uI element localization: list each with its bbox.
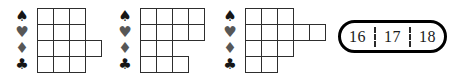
card-count-cells	[245, 40, 294, 57]
card-cell	[277, 8, 294, 25]
bridge-shape-diagram: ♠♥♦♣ ♠♥♦♣ ♠♥♦♣ 16 17 18	[0, 0, 455, 78]
card-cell	[277, 40, 294, 57]
card-cell	[85, 40, 102, 57]
card-count-cells	[140, 8, 205, 25]
card-cell	[53, 40, 70, 57]
card-cell	[245, 8, 262, 25]
card-cell	[140, 56, 157, 73]
card-cell	[309, 24, 326, 41]
card-cell	[188, 8, 205, 25]
card-count-cells	[245, 24, 326, 41]
card-count-cells	[37, 40, 102, 57]
suit-row-club: ♣	[222, 56, 326, 73]
suit-row-heart: ♥	[222, 24, 326, 41]
card-cell	[37, 8, 54, 25]
card-cell	[172, 56, 189, 73]
club-icon: ♣	[222, 56, 238, 73]
card-cell	[277, 24, 294, 41]
card-count-cells	[140, 40, 173, 57]
card-count-cells	[37, 56, 86, 73]
card-count-cells	[37, 8, 86, 25]
point-value-high: 18	[419, 28, 436, 46]
card-cell	[156, 8, 173, 25]
suit-row-club: ♣	[14, 56, 102, 73]
card-count-cells	[140, 24, 205, 41]
card-cell	[156, 24, 173, 41]
card-cell	[261, 40, 278, 57]
card-cell	[188, 24, 205, 41]
card-count-cells	[245, 56, 278, 73]
card-cell	[293, 24, 310, 41]
hand-diagram-3: ♠♥♦♣	[222, 8, 326, 73]
card-cell	[37, 56, 54, 73]
dashed-divider-icon	[374, 27, 376, 47]
card-cell	[172, 8, 189, 25]
card-cell	[156, 40, 173, 57]
card-cell	[245, 40, 262, 57]
card-count-cells	[37, 24, 86, 41]
point-value-low: 16	[349, 28, 366, 46]
hand-diagram-1: ♠♥♦♣	[14, 8, 102, 73]
card-cell	[140, 40, 157, 57]
suit-row-club: ♣	[117, 56, 205, 73]
card-count-cells	[140, 56, 189, 73]
dashed-divider-icon	[409, 27, 411, 47]
club-icon: ♣	[117, 56, 133, 73]
point-range-pill: 16 17 18	[338, 20, 447, 53]
card-cell	[69, 24, 86, 41]
card-cell	[261, 56, 278, 73]
card-cell	[261, 24, 278, 41]
card-cell	[53, 8, 70, 25]
card-cell	[245, 56, 262, 73]
suit-row-spade: ♠	[222, 8, 326, 25]
card-cell	[172, 24, 189, 41]
card-cell	[53, 24, 70, 41]
card-cell	[69, 56, 86, 73]
card-cell	[140, 24, 157, 41]
card-cell	[37, 24, 54, 41]
card-cell	[156, 56, 173, 73]
card-cell	[37, 40, 54, 57]
card-cell	[53, 56, 70, 73]
card-cell	[69, 8, 86, 25]
card-cell	[245, 24, 262, 41]
card-cell	[140, 8, 157, 25]
card-cell	[69, 40, 86, 57]
hand-diagram-2: ♠♥♦♣	[117, 8, 205, 73]
point-value-mid: 17	[384, 28, 401, 46]
suit-row-diamond: ♦	[222, 40, 326, 57]
club-icon: ♣	[14, 56, 30, 73]
card-count-cells	[245, 8, 294, 25]
card-cell	[261, 8, 278, 25]
